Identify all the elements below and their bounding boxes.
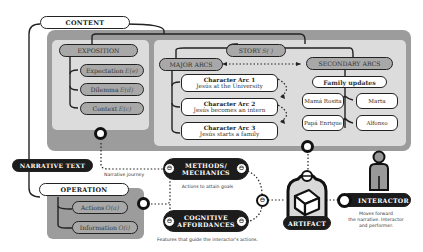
character-arc-2: Character Arc 2Jesús becomes an intern	[181, 98, 278, 116]
cognitive-caption: Features that guide the interactor's act…	[140, 237, 275, 242]
context-pill: ContextE(c)	[80, 102, 144, 115]
actions-pill: ActionsO(a)	[72, 201, 128, 214]
cognitive-right-node-icon: ⊖	[236, 216, 247, 227]
major-arcs-header: MAJOR ARCS	[159, 58, 223, 71]
interactor-node-icon	[337, 193, 352, 208]
exposition-header: EXPOSITION	[59, 44, 138, 57]
methods-right-node-icon: ⊖	[236, 163, 247, 174]
expectation-pill: ExpectationE(e)	[80, 64, 144, 77]
narrative-text-label: NARRATIVE TEXT	[12, 159, 93, 172]
methods-caption: Actions to attain goals	[170, 184, 245, 189]
artifact-label: ARTIFACT	[283, 216, 331, 230]
interactor-label: INTERACTOR	[342, 193, 411, 207]
operation-node-icon	[137, 197, 150, 210]
story-header: STORYS( )	[226, 44, 286, 57]
person-icon	[366, 150, 392, 196]
character-arc-3: Character Arc 3Jesús starts a family	[181, 122, 278, 140]
family-updates-pill: Family updates	[312, 76, 387, 88]
papa-enrique-pill: Papá Enrique	[302, 115, 344, 131]
mama-rosita-pill: Mamá Rosita	[302, 93, 344, 109]
interactor-caption-line-3: and performer.	[336, 223, 416, 229]
alfonso-pill: Alfonso	[356, 115, 398, 131]
character-arc-1: Character Arc 1Jesús at the University	[181, 74, 278, 92]
interactor-caption: Moves forward the narrative. Interactor …	[336, 211, 416, 230]
exposition-node-icon	[94, 127, 107, 140]
story-node-icon	[301, 140, 314, 153]
narrative-journey-caption: Narrative journey	[104, 172, 164, 177]
secondary-arcs-header: SECONDARY ARCS	[306, 57, 393, 70]
marta-pill: Marta	[356, 93, 398, 109]
cognitive-left-node-icon: ⊖	[164, 216, 175, 227]
methods-left-node-icon: ⊖	[164, 163, 175, 174]
junction-node-icon: ⊖	[256, 194, 269, 207]
content-header: CONTENT	[40, 16, 130, 29]
dilemma-pill: DilemmaE(d)	[80, 83, 144, 96]
operation-header: OPERATION	[39, 183, 129, 196]
information-pill: InformationO(i)	[72, 221, 138, 234]
